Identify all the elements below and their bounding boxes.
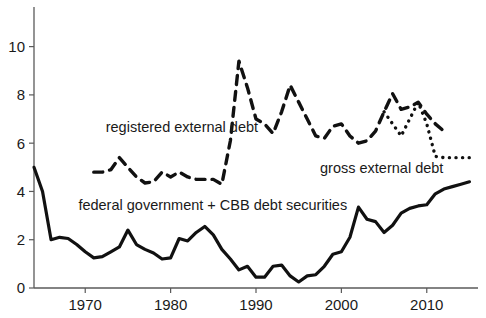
- gross-external-debt-label: gross external debt: [320, 160, 443, 176]
- y-tick-label: 8: [17, 86, 25, 103]
- chart-container: 0246810 19701980199020002010 registered …: [0, 0, 486, 318]
- chart-background: [0, 0, 486, 318]
- x-tick-label: 1980: [154, 296, 187, 313]
- x-tick-label: 2000: [325, 296, 358, 313]
- registered-external-debt-label: registered external debt: [106, 119, 258, 135]
- x-tick-label: 1990: [239, 296, 272, 313]
- y-tick-label: 6: [17, 135, 25, 152]
- y-tick-label: 2: [17, 231, 25, 248]
- federal-government-cbb-label: federal government + CBB debt securities: [78, 197, 347, 213]
- y-tick-label: 10: [8, 38, 25, 55]
- x-tick-label: 1970: [69, 296, 102, 313]
- x-tick-label: 2010: [410, 296, 443, 313]
- y-tick-label: 4: [17, 183, 25, 200]
- line-chart: 0246810 19701980199020002010 registered …: [0, 0, 486, 318]
- y-tick-label: 0: [17, 279, 25, 296]
